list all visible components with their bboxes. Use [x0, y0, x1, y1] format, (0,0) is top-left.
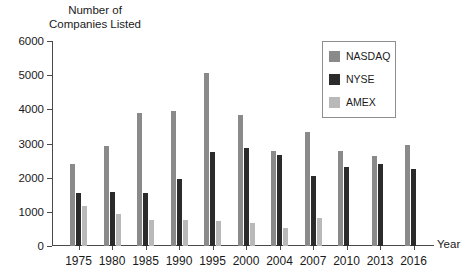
bar — [372, 156, 377, 246]
bar — [204, 73, 209, 246]
y-tick-label: 1000 — [18, 206, 44, 218]
legend-swatch-icon — [329, 97, 340, 108]
bar — [271, 151, 276, 246]
x-tick-label: 2016 — [400, 254, 427, 268]
bar — [143, 193, 148, 246]
bar — [344, 167, 349, 246]
y-axis-line — [52, 41, 53, 246]
bar — [283, 228, 288, 246]
bar — [137, 113, 142, 246]
x-tick-mark — [313, 246, 314, 250]
x-tick-mark — [347, 246, 348, 250]
bar — [183, 220, 188, 246]
y-tick-label: 3000 — [18, 138, 44, 150]
y-tick-mark — [47, 178, 52, 179]
chart-legend: NASDAQNYSEAMEX — [322, 41, 396, 118]
legend-label: NYSE — [346, 73, 375, 85]
x-tick-label: 2007 — [300, 254, 327, 268]
bar — [104, 146, 109, 246]
bar — [171, 111, 176, 246]
x-tick-label: 1980 — [99, 254, 126, 268]
y-tick-mark — [47, 109, 52, 110]
x-tick-mark — [280, 246, 281, 250]
bar — [250, 223, 255, 246]
x-tick-mark — [414, 246, 415, 250]
legend-label: AMEX — [346, 96, 376, 108]
bar — [216, 221, 221, 246]
x-tick-label: 1975 — [65, 254, 92, 268]
bar — [177, 179, 182, 246]
y-tick-label: 4000 — [18, 103, 44, 115]
legend-swatch-icon — [329, 74, 340, 85]
bar — [116, 214, 121, 246]
legend-item[interactable]: NYSE — [329, 70, 389, 88]
bar — [411, 169, 416, 246]
bar — [238, 115, 243, 246]
bar — [305, 132, 310, 246]
x-tick-label: 1985 — [132, 254, 159, 268]
bar — [70, 164, 75, 246]
bar — [76, 193, 81, 246]
x-axis-title: Year — [437, 238, 460, 250]
bar — [338, 151, 343, 246]
x-tick-mark — [213, 246, 214, 250]
bar — [210, 152, 215, 246]
x-tick-label: 1995 — [199, 254, 226, 268]
x-tick-label: 1990 — [166, 254, 193, 268]
legend-item[interactable]: NASDAQ — [329, 47, 389, 65]
bar — [244, 148, 249, 246]
bar-chart: Number of Companies Listed 0100020003000… — [0, 0, 473, 274]
y-tick-label: 2000 — [18, 172, 44, 184]
bar — [149, 220, 154, 246]
x-tick-mark — [112, 246, 113, 250]
y-tick-label: 0 — [38, 240, 44, 252]
y-tick-label: 6000 — [18, 35, 44, 47]
bar — [405, 145, 410, 246]
x-tick-label: 2004 — [266, 254, 293, 268]
x-tick-label: 2010 — [333, 254, 360, 268]
legend-item[interactable]: AMEX — [329, 93, 389, 111]
legend-label: NASDAQ — [346, 50, 390, 62]
bar — [82, 206, 87, 246]
x-tick-label: 2000 — [233, 254, 260, 268]
bar — [311, 176, 316, 246]
y-tick-mark — [47, 246, 52, 247]
legend-swatch-icon — [329, 51, 340, 62]
x-tick-mark — [246, 246, 247, 250]
x-tick-label: 2013 — [367, 254, 394, 268]
y-tick-mark — [47, 75, 52, 76]
y-axis-title: Number of Companies Listed — [20, 3, 170, 31]
x-tick-mark — [146, 246, 147, 250]
bar — [317, 218, 322, 246]
y-tick-mark — [47, 212, 52, 213]
y-tick-mark — [47, 144, 52, 145]
bar — [277, 155, 282, 246]
x-tick-mark — [179, 246, 180, 250]
x-tick-mark — [380, 246, 381, 250]
y-tick-mark — [47, 41, 52, 42]
y-tick-label: 5000 — [18, 69, 44, 81]
x-tick-mark — [79, 246, 80, 250]
bar — [378, 164, 383, 246]
bar — [110, 192, 115, 246]
